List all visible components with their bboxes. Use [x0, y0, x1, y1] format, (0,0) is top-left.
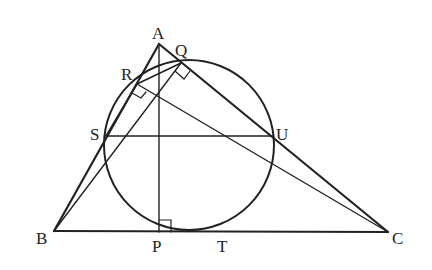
segment-cr: [137, 84, 388, 232]
label-a: A: [152, 24, 165, 43]
right-angle-marker-r: [132, 92, 146, 98]
segment-ac: [159, 44, 388, 232]
circle: [104, 60, 274, 230]
segment-bc: [54, 231, 388, 232]
label-s: S: [90, 125, 99, 144]
geometry-diagram: A Q R S U B P T C: [0, 0, 432, 270]
label-b: B: [36, 229, 47, 248]
label-p: P: [152, 237, 161, 256]
label-q: Q: [175, 41, 187, 60]
label-c: C: [392, 229, 403, 248]
right-angle-marker-q: [175, 71, 190, 79]
segment-ab: [54, 44, 159, 231]
label-t: T: [217, 237, 228, 256]
segment-bq: [54, 63, 181, 231]
label-u: U: [276, 125, 288, 144]
label-r: R: [121, 65, 133, 84]
